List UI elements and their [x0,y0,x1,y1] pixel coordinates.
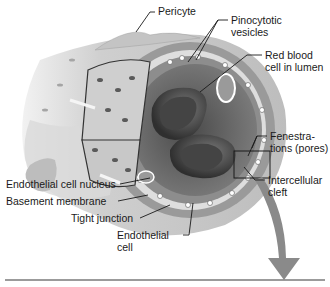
label-rbc-line1: Red blood [265,49,323,61]
label-pericyte: Pericyte [158,5,196,17]
label-endothelial-cell-line1: Endothelial [117,229,169,241]
label-endothelial-cell-nucleus: Endothelial cell nucleus [6,178,116,190]
label-intercellular-cleft: Intercellular cleft [268,174,322,198]
label-endothelial-cell-line2: cell [117,241,169,253]
label-intercellular-line1: Intercellular [268,174,322,186]
label-fenestrations-line1: Fenestra- [270,130,328,142]
label-red-blood-cell: Red blood cell in lumen [265,49,323,73]
label-tight-junction: Tight junction [71,212,133,224]
endothelial-nucleus [138,171,154,183]
label-fenestrations-line2: tions (pores) [270,142,328,154]
label-pinocytotic-line1: Pinocytotic [231,14,282,26]
endothelial-nucleus-right [217,74,235,102]
capillary-diagram: Pericyte Pinocytotic vesicles Red blood … [0,0,330,287]
label-pinocytotic-line2: vesicles [231,26,282,38]
label-intercellular-line2: cleft [268,186,322,198]
label-rbc-line2: cell in lumen [265,61,323,73]
label-fenestrations: Fenestra- tions (pores) [270,130,328,154]
label-endothelial-cell: Endothelial cell [117,229,169,253]
label-pinocytotic-vesicles: Pinocytotic vesicles [231,14,282,38]
label-basement-membrane: Basement membrane [6,195,106,207]
